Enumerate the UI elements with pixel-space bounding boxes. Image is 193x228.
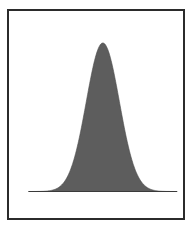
normal-distribution-chart — [9, 11, 183, 218]
figure-frame-border — [7, 9, 185, 220]
figure-container — [0, 0, 193, 228]
plot-area — [9, 11, 183, 218]
area-series-group — [29, 43, 178, 192]
bell-curve-area-fill — [29, 43, 178, 192]
